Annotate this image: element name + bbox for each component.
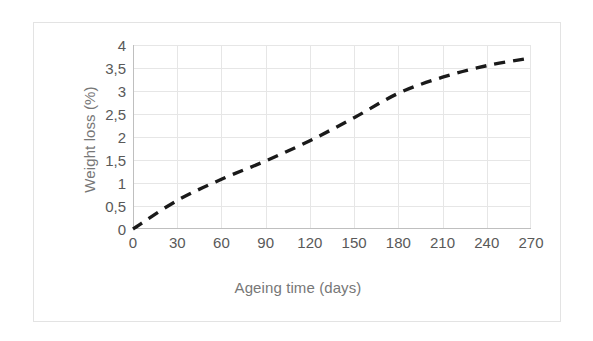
y-axis-tick-labels: 00,511,522,533,54 xyxy=(86,45,126,229)
y-axis-tick-label: 0,5 xyxy=(86,199,126,214)
weight-loss-series-line xyxy=(133,45,531,229)
y-axis-tick-label: 1 xyxy=(86,176,126,191)
y-axis-tick-label: 3,5 xyxy=(86,61,126,76)
plot-area xyxy=(133,45,531,229)
y-axis-tick-label: 1,5 xyxy=(86,153,126,168)
x-axis-tick-labels: 0306090120150180210240270 xyxy=(133,235,531,255)
chart-frame: Weight loss (%) 00,511,522,533,54 030609… xyxy=(33,22,561,322)
y-axis-tick-label: 4 xyxy=(86,38,126,53)
chart-figure: Weight loss (%) 00,511,522,533,54 030609… xyxy=(0,0,593,341)
y-axis-tick-label: 3 xyxy=(86,84,126,99)
y-axis-tick-label: 2 xyxy=(86,130,126,145)
x-axis-tick-label: 270 xyxy=(501,235,561,250)
x-axis-title: Ageing time (days) xyxy=(34,279,562,296)
y-axis-tick-label: 2,5 xyxy=(86,107,126,122)
